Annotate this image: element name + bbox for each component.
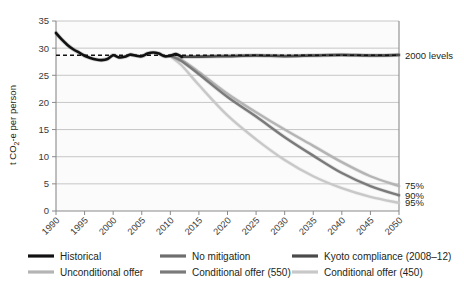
y-tick-label-25: 25	[38, 70, 49, 81]
y-tick-label-20: 20	[38, 97, 49, 108]
annotation-2000-levels: 2000 levels	[405, 50, 453, 61]
legend-conditional-offer-550-label: Conditional offer (550)	[192, 267, 291, 278]
legend-no-mitigation-label: No mitigation	[192, 251, 250, 262]
emissions-projection-chart: 05101520253035 1990199520002005201020152…	[0, 0, 464, 286]
annotation-target-95: 95%	[405, 197, 425, 208]
chart-figure: 05101520253035 1990199520002005201020152…	[0, 0, 464, 286]
legend-historical-label: Historical	[60, 251, 101, 262]
legend-conditional-offer-450-label: Conditional offer (450)	[324, 267, 423, 278]
legend-kyoto-compliance-label: Kyoto compliance (2008–12)	[324, 251, 451, 262]
y-tick-label-15: 15	[38, 124, 49, 135]
y-axis-title: t CO2-e per person	[7, 85, 20, 165]
y-tick-label-0: 0	[44, 205, 49, 216]
legend-unconditional-offer-label: Unconditional offer	[60, 267, 144, 278]
y-tick-label-10: 10	[38, 151, 49, 162]
y-tick-label-30: 30	[38, 43, 49, 54]
y-tick-label-35: 35	[38, 15, 49, 26]
y-tick-label-5: 5	[44, 178, 49, 189]
